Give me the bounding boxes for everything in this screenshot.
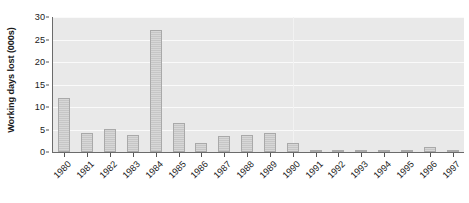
y-axis-tick-mark [46, 152, 50, 153]
x-axis-tick-label: 1986 [184, 159, 211, 186]
x-axis-tick-label: 1997 [435, 159, 462, 186]
x-axis-tick-label: 1981 [69, 159, 96, 186]
y-axis-tick-mark [46, 62, 50, 63]
gridline [53, 107, 464, 108]
x-axis-tick-label: 1987 [206, 159, 233, 186]
x-axis-tick-mark [201, 153, 202, 157]
x-axis-tick-mark [87, 153, 88, 157]
x-axis-tick-label: 1989 [252, 159, 279, 186]
bar [264, 133, 276, 152]
x-axis-tick-mark [338, 153, 339, 157]
bar [241, 135, 253, 152]
gridline [53, 62, 464, 63]
bar [401, 150, 413, 152]
plot-area [53, 17, 464, 152]
bar [332, 150, 344, 152]
y-axis-tick-label: 30 [35, 12, 45, 22]
x-axis-tick-label: 1995 [389, 159, 416, 186]
y-axis-tick-label: 15 [35, 80, 45, 90]
x-axis-tick-label: 1996 [412, 159, 439, 186]
y-axis-tick-mark [46, 17, 50, 18]
x-axis-tick-mark [361, 153, 362, 157]
chart-figure: Working days lost (000s) 051015202530 19… [0, 0, 469, 203]
x-axis-tick-label: 1985 [161, 159, 188, 186]
x-axis-tick-mark [224, 153, 225, 157]
x-axis-tick-mark [453, 153, 454, 157]
x-axis-tick-mark [430, 153, 431, 157]
y-axis-tick-mark [46, 84, 50, 85]
x-axis-tick-mark [156, 153, 157, 157]
x-axis-tick-mark [64, 153, 65, 157]
bar [127, 135, 139, 152]
gridline [53, 17, 464, 18]
y-axis-ticks: 051015202530 [20, 0, 49, 160]
bar [58, 98, 70, 152]
vertical-gridline [293, 17, 294, 152]
bar [287, 143, 299, 152]
x-axis-tick-label: 1994 [366, 159, 393, 186]
gridline [53, 40, 464, 41]
y-axis-tick-label: 5 [40, 125, 45, 135]
x-axis-tick-mark [407, 153, 408, 157]
y-axis-tick-mark [46, 129, 50, 130]
y-axis-title-container: Working days lost (000s) [0, 0, 22, 160]
x-axis-tick-mark [133, 153, 134, 157]
x-axis-tick-label: 1983 [115, 159, 142, 186]
bar [424, 147, 436, 152]
bar [173, 123, 185, 152]
x-axis-tick-label: 1993 [343, 159, 370, 186]
x-axis-tick-label: 1982 [92, 159, 119, 186]
x-axis-tick-label: 1984 [138, 159, 165, 186]
bar [81, 133, 93, 152]
bar [195, 143, 207, 152]
x-axis-tick-label: 1980 [47, 159, 74, 186]
x-axis-tick-mark [270, 153, 271, 157]
x-axis-tick-mark [384, 153, 385, 157]
bar [310, 150, 322, 152]
x-axis-tick-label: 1991 [298, 159, 325, 186]
y-axis-tick-label: 10 [35, 102, 45, 112]
x-axis-tick-mark [179, 153, 180, 157]
x-axis-tick-mark [110, 153, 111, 157]
x-axis-tick-mark [316, 153, 317, 157]
gridline [53, 85, 464, 86]
y-axis-tick-mark [46, 107, 50, 108]
x-axis-tick-label: 1992 [321, 159, 348, 186]
bar [447, 150, 459, 152]
bar [150, 30, 162, 152]
bar [355, 150, 367, 152]
x-axis-tick-label: 1988 [229, 159, 256, 186]
x-axis-ticks: 1980198119821983198419851986198719881989… [53, 153, 464, 203]
bar [104, 129, 116, 152]
y-axis-title: Working days lost (000s) [6, 27, 16, 133]
y-axis-tick-label: 20 [35, 57, 45, 67]
x-axis-tick-mark [293, 153, 294, 157]
y-axis-tick-mark [46, 39, 50, 40]
x-axis-tick-label: 1990 [275, 159, 302, 186]
bar [378, 150, 390, 152]
x-axis-tick-mark [247, 153, 248, 157]
y-axis-tick-label: 25 [35, 35, 45, 45]
bar [218, 136, 230, 152]
y-axis-tick-label: 0 [40, 147, 45, 157]
